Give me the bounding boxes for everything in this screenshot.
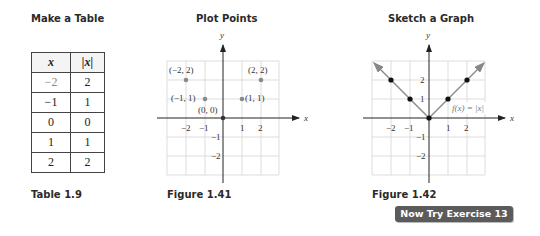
x-tick: −1 [404,123,414,133]
y-tick: −1 [416,132,426,142]
y-tick: 2 [420,75,425,85]
abs-left-branch [374,63,429,118]
figure-1-42-caption: Figure 1.42 [372,189,436,200]
sketch-graph-chart: x y −2 −1 1 2 2 1 −1 −2 f(x) = |x| [0,0,540,236]
y-tick: 1 [420,94,425,104]
now-try-exercise-button[interactable]: Now Try Exercise 13 [395,206,513,222]
y-tick: −2 [416,151,426,161]
x-tick: 1 [446,123,451,133]
table-caption: Table 1.9 [31,189,82,200]
x-tick: −2 [386,123,396,133]
x-axis-label: x [509,113,514,123]
function-label: f(x) = |x| [452,103,484,113]
figure-1-41-caption: Figure 1.41 [167,189,231,200]
y-axis-label: y [425,30,430,40]
x-tick: 2 [464,123,469,133]
